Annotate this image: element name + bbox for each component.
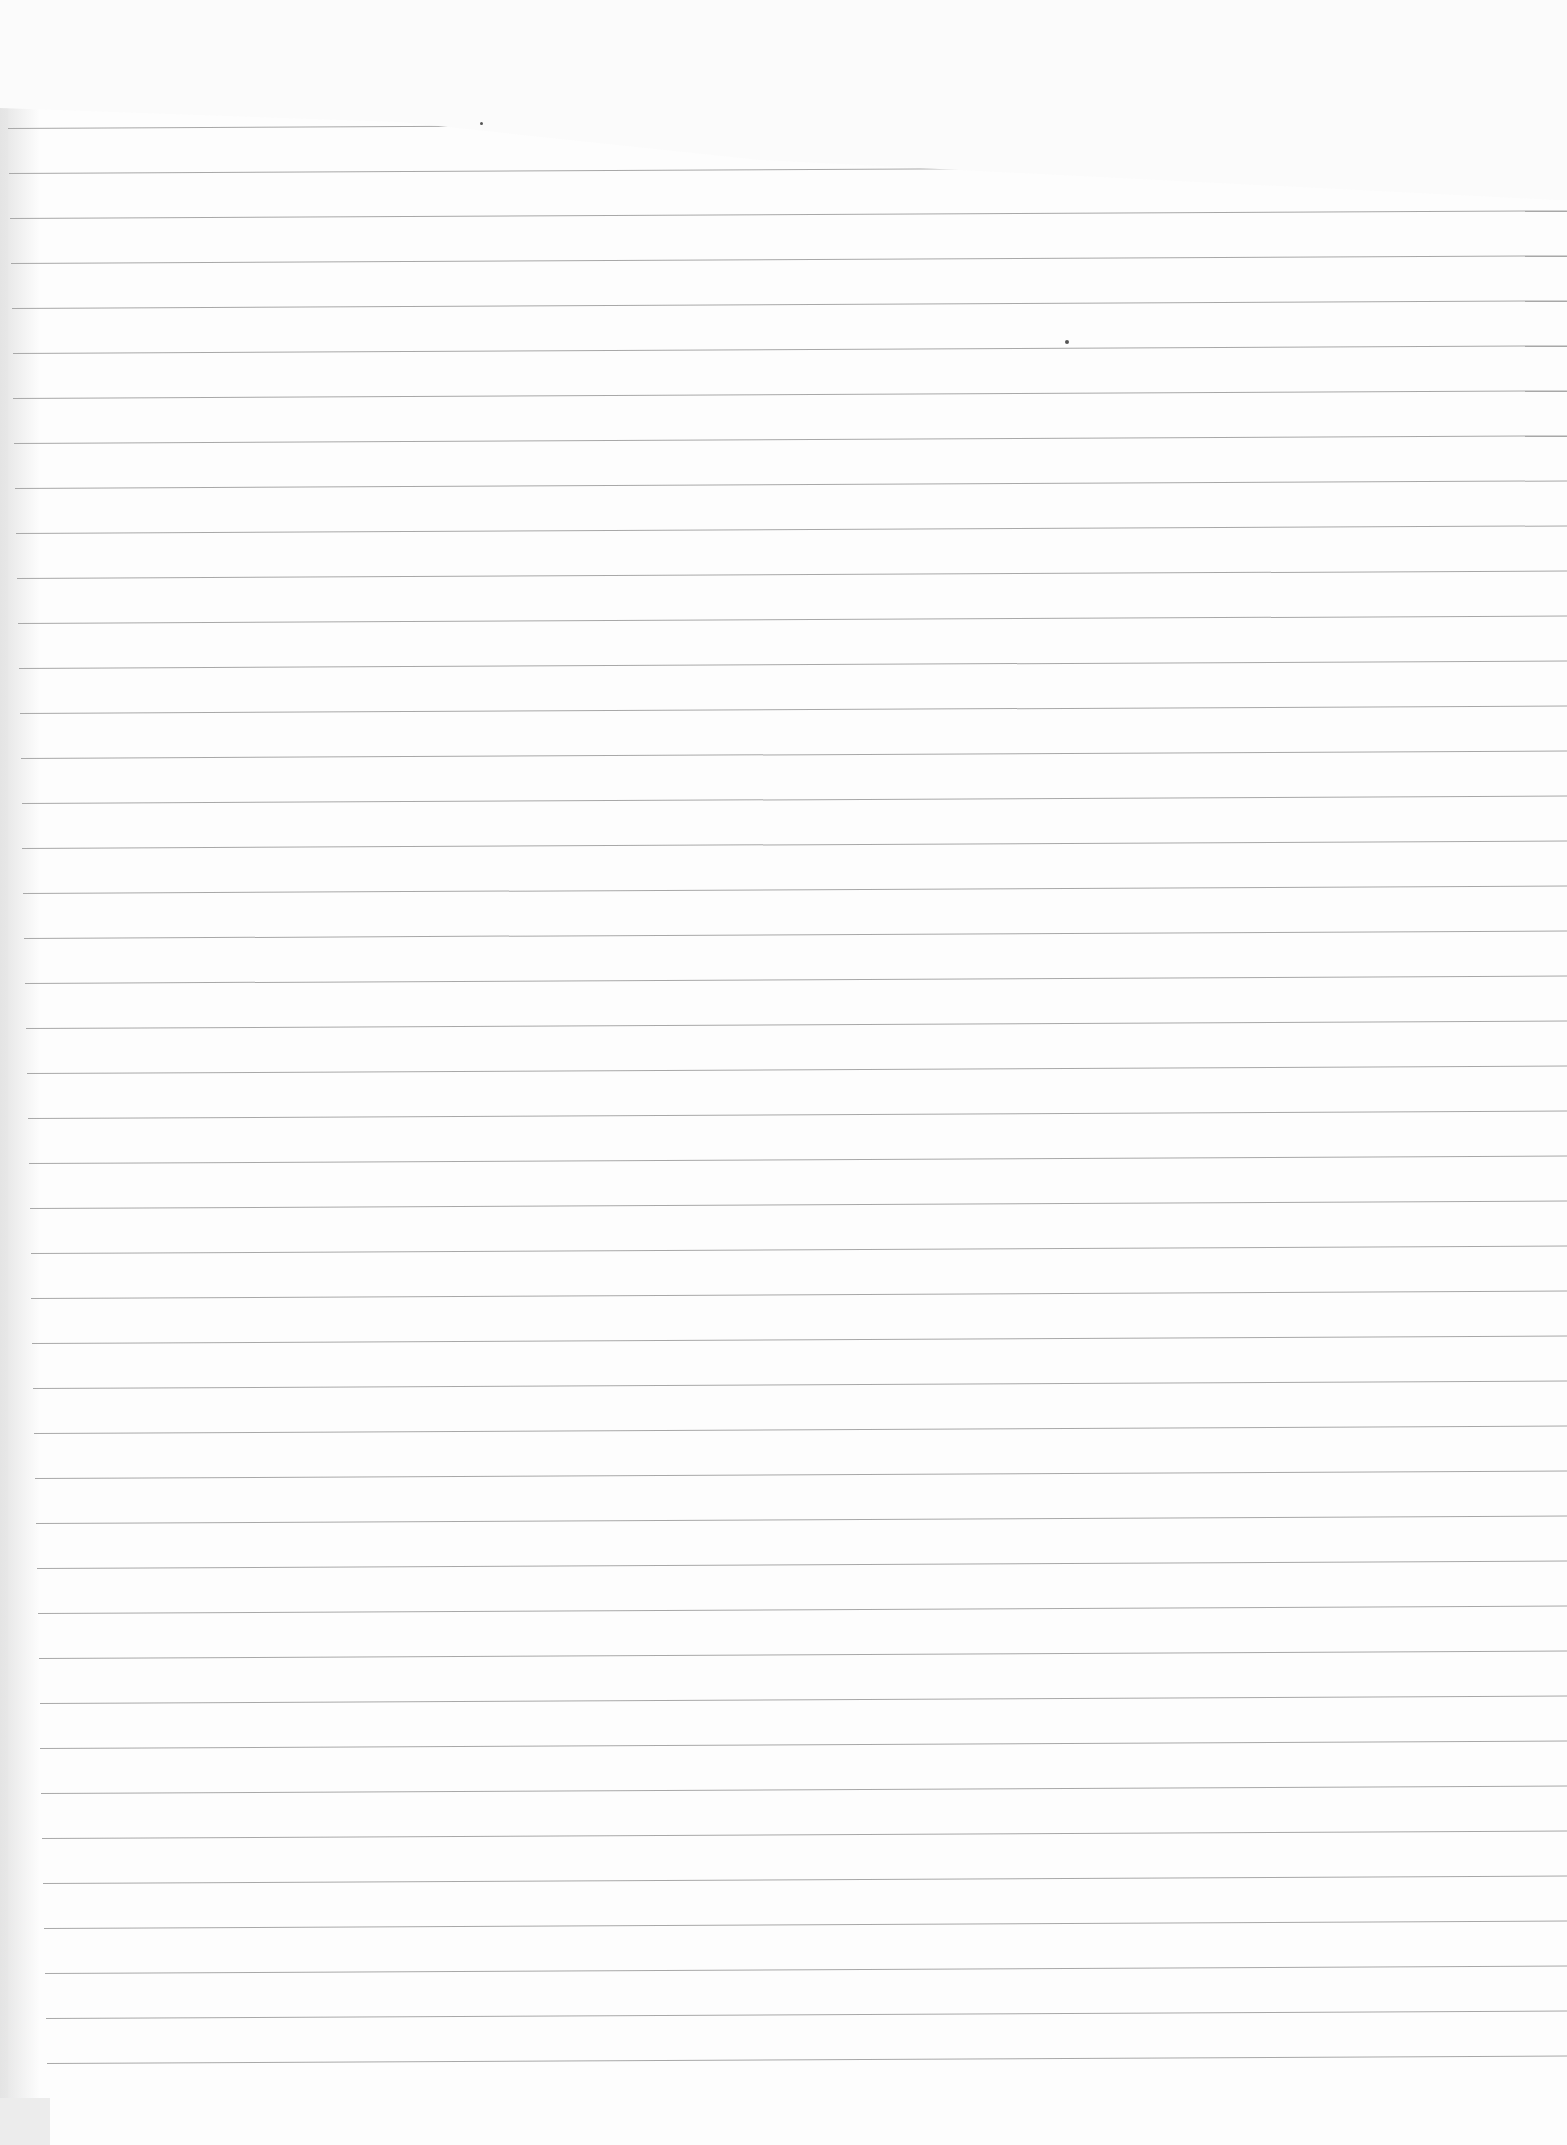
paper-speck [480, 122, 483, 125]
page-corner-shadow [0, 2098, 50, 2145]
paper-speck [1065, 340, 1069, 344]
